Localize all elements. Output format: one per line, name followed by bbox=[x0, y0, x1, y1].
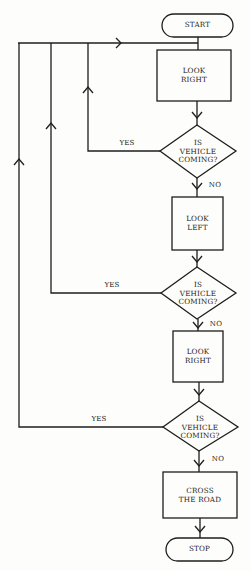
flowchart-canvas: START LOOK RIGHT IS VEHICLE COMING? LOOK… bbox=[0, 0, 251, 571]
yes-loop-3 bbox=[19, 43, 163, 427]
stop-label: STOP bbox=[166, 545, 233, 554]
yes-loop-1 bbox=[88, 43, 160, 151]
decision-3-label: IS VEHICLE COMING? bbox=[167, 415, 233, 441]
yes-label-1: YES bbox=[112, 139, 142, 148]
decision-2-label: IS VEHICLE COMING? bbox=[165, 281, 231, 307]
cross-road-label: CROSS THE ROAD bbox=[163, 487, 237, 504]
yes-label-3: YES bbox=[84, 415, 114, 424]
no-label-3: NO bbox=[208, 455, 228, 464]
decision-1-label: IS VEHICLE COMING? bbox=[165, 139, 231, 165]
look-right-2-label: LOOK RIGHT bbox=[173, 348, 223, 365]
look-right-1-label: LOOK RIGHT bbox=[157, 67, 231, 84]
start-label: START bbox=[162, 21, 233, 30]
no-label-2: NO bbox=[206, 320, 226, 329]
yes-label-2: YES bbox=[97, 281, 127, 290]
look-left-label: LOOK LEFT bbox=[172, 215, 223, 232]
yes-loop-2 bbox=[51, 43, 161, 293]
no-label-1: NO bbox=[205, 181, 225, 190]
